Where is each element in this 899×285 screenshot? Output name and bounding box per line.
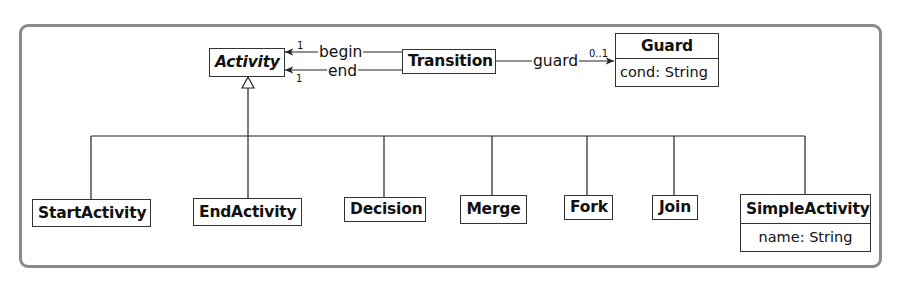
class-decision[interactable]: Decision bbox=[344, 197, 426, 222]
multiplicity-end: 1 bbox=[296, 74, 302, 84]
class-activity[interactable]: Activity bbox=[209, 48, 285, 77]
class-start-activity[interactable]: StartActivity bbox=[32, 199, 151, 227]
class-transition[interactable]: Transition bbox=[402, 49, 496, 74]
class-name: Transition bbox=[403, 50, 495, 72]
class-attribute: name: String bbox=[741, 223, 870, 251]
association-label-begin: begin bbox=[318, 44, 363, 60]
multiplicity-guard: 0..1 bbox=[589, 49, 608, 59]
class-name: SimpleActivity bbox=[741, 195, 870, 223]
class-name: Activity bbox=[210, 49, 284, 75]
class-fork[interactable]: Fork bbox=[564, 195, 613, 220]
class-name: Fork bbox=[565, 196, 612, 219]
class-name: EndActivity bbox=[194, 199, 301, 225]
class-attribute: cond: String bbox=[616, 58, 718, 86]
class-simple-activity[interactable]: SimpleActivity name: String bbox=[740, 194, 871, 252]
class-name: Decision bbox=[345, 198, 425, 221]
class-name: Merge bbox=[461, 196, 526, 223]
generalization-arrowhead-icon bbox=[242, 77, 254, 88]
class-guard[interactable]: Guard cond: String bbox=[615, 33, 719, 87]
class-name: Join bbox=[653, 196, 697, 219]
association-label-guard: guard bbox=[532, 53, 579, 69]
class-name: Guard bbox=[616, 34, 718, 58]
class-join[interactable]: Join bbox=[652, 195, 698, 220]
class-merge[interactable]: Merge bbox=[460, 195, 527, 224]
class-end-activity[interactable]: EndActivity bbox=[193, 198, 302, 226]
class-name: StartActivity bbox=[33, 200, 150, 226]
association-label-end: end bbox=[327, 63, 358, 79]
multiplicity-begin: 1 bbox=[297, 41, 303, 51]
